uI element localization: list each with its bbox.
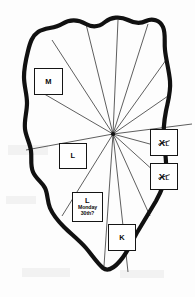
box-m[interactable]: M (34, 68, 63, 95)
box-xl-upper-text: XL (159, 138, 170, 148)
box-xl-upper[interactable]: XL (150, 129, 178, 156)
box-l-monday-sub-line-2: 30th? (81, 211, 94, 216)
map-figure: MLXLXLLMonday30th?K (0, 0, 195, 297)
box-xl-lower[interactable]: XL (150, 163, 178, 190)
hub-dot-icon (111, 132, 115, 136)
box-k-main-text: K (119, 234, 125, 242)
box-l-left[interactable]: L (59, 143, 87, 169)
landmass-outline-path (24, 18, 170, 270)
box-m-main-text: M (45, 78, 51, 86)
box-k[interactable]: K (108, 224, 136, 251)
box-l-monday[interactable]: LMonday30th? (72, 192, 103, 222)
box-xl-lower-text: XL (159, 172, 170, 182)
box-l-left-main-text: L (71, 152, 76, 160)
